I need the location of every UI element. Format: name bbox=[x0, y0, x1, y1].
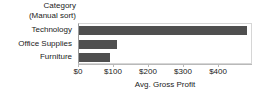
bar-row bbox=[79, 51, 251, 65]
bar-office-supplies[interactable] bbox=[79, 40, 117, 49]
row-field-header-line1: Category bbox=[0, 1, 76, 11]
x-axis-tick-label: $200 bbox=[139, 67, 157, 77]
x-axis-line bbox=[78, 64, 252, 65]
bar-technology[interactable] bbox=[79, 26, 247, 35]
x-axis-tick-label: $0 bbox=[74, 67, 83, 77]
x-axis-title: Avg. Gross Profit bbox=[78, 80, 252, 90]
row-field-header: Category (Manual sort) bbox=[0, 1, 76, 21]
category-label-technology: Technology bbox=[0, 23, 75, 37]
x-axis-tick-label: $300 bbox=[174, 67, 192, 77]
bar-row bbox=[79, 24, 251, 38]
x-axis-tick-label: $400 bbox=[209, 67, 227, 77]
row-field-header-line2: (Manual sort) bbox=[0, 11, 76, 21]
category-label-office-supplies: Office Supplies bbox=[0, 37, 75, 51]
bar-series bbox=[79, 24, 251, 63]
category-axis-labels: Technology Office Supplies Furniture bbox=[0, 23, 75, 64]
category-label-furniture: Furniture bbox=[0, 50, 75, 64]
bar-row bbox=[79, 38, 251, 52]
bar-furniture[interactable] bbox=[79, 53, 110, 62]
x-axis-tick-label: $100 bbox=[104, 67, 122, 77]
plot-area bbox=[78, 23, 252, 64]
bar-chart: Category (Manual sort) Technology Office… bbox=[0, 0, 269, 101]
